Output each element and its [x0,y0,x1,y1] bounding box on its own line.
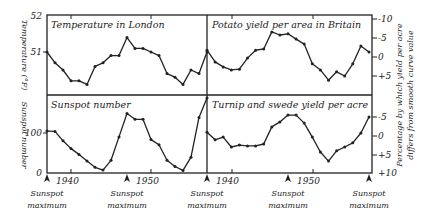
data-point [46,130,49,133]
data-point [166,72,169,75]
data-point [368,51,371,54]
data-point [198,116,201,119]
data-point [214,60,217,63]
data-point [150,138,153,141]
data-point [278,120,281,123]
data-point [46,51,49,54]
data-point [254,49,257,52]
data-point [118,54,121,57]
data-point [238,144,241,147]
data-point [343,146,346,149]
sunspot-max-label: maximum [268,201,308,210]
data-point [206,49,209,52]
data-point [174,76,177,79]
data-point [174,165,177,168]
data-point [254,144,257,147]
data-point [327,160,330,163]
sunspot-max-label: Sunspot [30,189,64,198]
potato-panel-title: Potato yield per area in Britain [211,19,361,30]
data-point [262,143,265,146]
turnip-panel-title: Turnip and swede yield per acre [212,99,368,110]
data-point [319,151,322,154]
sunspot-max-label: maximum [107,201,147,210]
data-point [206,131,209,134]
data-point [238,68,241,71]
data-point [206,96,209,99]
sunspot-max-label: maximum [187,201,227,210]
data-point [335,70,338,73]
data-point [126,112,129,115]
data-point [78,153,81,156]
potato-series [206,30,371,81]
ytick-0: 0 [36,168,42,178]
data-point [86,160,89,163]
data-point [222,65,225,68]
potato-ytick-minus5: -5 [378,33,387,43]
data-point [270,125,273,128]
turnip-ytick-minus5: -5 [378,112,387,122]
sunspot-max-label: Sunspot [271,189,305,198]
data-point [94,65,97,68]
data-point [246,144,249,147]
turnip-series [206,114,371,163]
data-point [110,54,113,57]
data-point [311,62,314,65]
arrow-up-icon [44,174,50,182]
data-point [278,34,281,37]
data-point [351,141,354,144]
xtick-1950-left: 1950 [136,176,159,186]
data-point [158,54,161,57]
arrow-up-icon [366,174,372,182]
right-axis-label-line1: Percentage by which yield per acre [395,23,404,168]
data-point [287,114,290,117]
plot-frame [47,15,372,173]
data-point [102,169,105,172]
data-point [319,68,322,71]
data-point [214,138,217,141]
temperature-panel-title: Temperature in London [51,19,165,30]
right-axis-label-line2: differs from smooth curve value [406,30,415,160]
data-point [303,122,306,125]
data-point [54,61,57,64]
turnip-line [207,115,369,161]
data-point [158,143,161,146]
temperature-axis-label: Temperature (°F) [20,20,29,91]
data-point [262,48,265,51]
data-point [327,79,330,82]
data-point [78,79,81,82]
sunspot-max-label: Sunspot [190,189,224,198]
data-point [86,83,89,86]
data-point [134,47,137,50]
data-point [110,159,113,162]
data-point [54,130,57,133]
sunspot-max-label: maximum [27,201,67,210]
data-point [182,83,185,86]
data-point [359,45,362,48]
arrow-up-icon [124,174,130,182]
ytick-51: 51 [31,47,42,57]
sunspot-axis-label: Sunspot number [20,101,29,169]
data-point [295,38,298,41]
data-point [142,118,145,121]
data-point [270,30,273,33]
data-point [335,149,338,152]
data-point [287,32,290,35]
data-point [295,114,298,117]
xtick-1940-left: 1940 [56,176,79,186]
data-point [142,47,145,50]
potato-line [207,32,369,80]
sunspot-maximum-markers [44,174,372,182]
data-point [222,136,225,139]
data-point [230,146,233,149]
data-point [351,62,354,65]
data-point [70,147,73,150]
data-point [359,132,362,135]
data-point [134,118,137,121]
potato-ytick-0: 0 [378,52,384,62]
data-point [190,69,193,72]
xtick-1940-right: 1940 [216,176,239,186]
data-point [126,36,129,39]
data-point [166,159,169,162]
data-point [102,61,105,64]
data-point [230,68,233,71]
